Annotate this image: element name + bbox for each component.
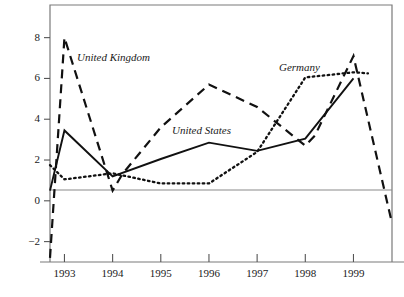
series-label-united-kingdom: United Kingdom	[77, 52, 150, 63]
series-label-germany: Germany	[279, 62, 320, 73]
y-axis-ticks	[44, 38, 50, 242]
y-tick-label: 2	[8, 154, 40, 165]
series-label-united-states: United States	[172, 125, 231, 136]
y-tick-label: 0	[8, 195, 40, 206]
y-tick-label: 4	[8, 113, 40, 124]
y-tick-label: −2	[8, 236, 40, 247]
x-tick-label: 1994	[88, 268, 138, 279]
x-tick-label: 1996	[184, 268, 234, 279]
chart-container: 86420−2 1993199419951996199719981999 Uni…	[0, 0, 404, 297]
x-axis-ticks	[64, 254, 353, 262]
x-tick-label: 1999	[328, 268, 378, 279]
line-chart-plot	[0, 0, 404, 297]
x-tick-label: 1997	[232, 268, 282, 279]
x-tick-label: 1995	[136, 268, 186, 279]
y-tick-label: 6	[8, 72, 40, 83]
series-line-united-kingdom	[50, 38, 392, 258]
y-tick-label: 8	[8, 32, 40, 43]
x-tick-label: 1998	[280, 268, 330, 279]
x-tick-label: 1993	[39, 268, 89, 279]
series-lines	[50, 38, 392, 258]
